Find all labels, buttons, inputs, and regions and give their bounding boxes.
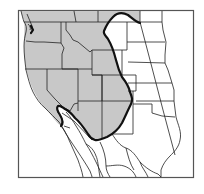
range-map [0, 0, 204, 194]
